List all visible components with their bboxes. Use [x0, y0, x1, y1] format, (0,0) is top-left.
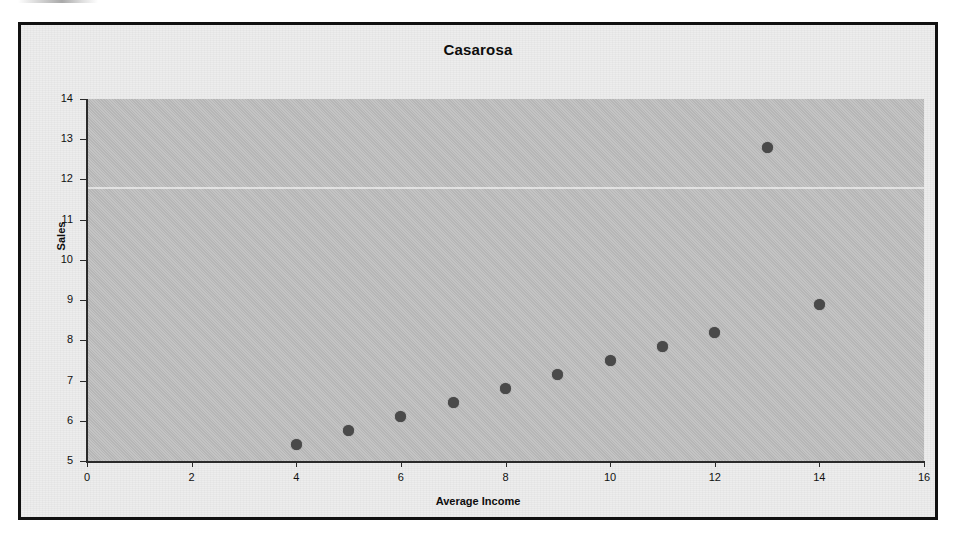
x-axis-tick: [819, 461, 820, 467]
y-axis-tick: [80, 461, 86, 462]
y-axis-tick: [80, 260, 86, 261]
x-axis-tick-label: 8: [486, 471, 526, 483]
data-point: [605, 355, 616, 366]
x-axis-tick-label: 0: [67, 471, 107, 483]
plot-area: [87, 99, 924, 461]
y-axis-tick-label: 5: [33, 454, 73, 466]
x-axis-tick-label: 12: [695, 471, 735, 483]
y-axis-tick-label: 12: [33, 172, 73, 184]
x-axis-tick: [924, 461, 925, 467]
data-point: [448, 397, 459, 408]
y-axis-tick-label: 10: [33, 253, 73, 265]
y-axis-tick: [80, 179, 86, 180]
x-axis-tick: [610, 461, 611, 467]
x-axis-tick: [401, 461, 402, 467]
x-axis-tick: [506, 461, 507, 467]
x-axis-tick: [87, 461, 88, 467]
y-axis-tick-label: 11: [33, 213, 73, 225]
x-axis-tick-label: 2: [172, 471, 212, 483]
x-axis-tick-label: 14: [799, 471, 839, 483]
y-axis-tick: [80, 340, 86, 341]
y-axis-tick: [80, 300, 86, 301]
y-axis-tick: [80, 99, 86, 100]
x-axis-tick: [715, 461, 716, 467]
y-axis-tick: [80, 139, 86, 140]
y-axis-tick: [80, 421, 86, 422]
scan-artifact: [18, 0, 98, 3]
scan-band-artifact: [87, 187, 924, 189]
y-axis-tick-label: 9: [33, 293, 73, 305]
data-point: [762, 142, 773, 153]
data-point: [709, 327, 720, 338]
chart-frame: Casarosa 567891011121314 0246810121416 S…: [18, 22, 938, 520]
x-axis-tick: [296, 461, 297, 467]
x-axis-tick-label: 4: [276, 471, 316, 483]
y-axis-tick: [80, 220, 86, 221]
x-axis-tick-label: 6: [381, 471, 421, 483]
y-axis-tick: [80, 381, 86, 382]
chart-title: Casarosa: [21, 41, 935, 58]
y-axis-line: [86, 99, 88, 463]
data-point: [657, 341, 668, 352]
x-axis-tick-label: 16: [904, 471, 944, 483]
x-axis-title: Average Income: [21, 495, 935, 507]
y-axis-title: Sales: [55, 186, 67, 286]
x-axis-tick: [192, 461, 193, 467]
data-point: [814, 299, 825, 310]
x-axis-tick-label: 10: [590, 471, 630, 483]
y-axis-tick-label: 13: [33, 132, 73, 144]
y-axis-tick-label: 14: [33, 92, 73, 104]
y-axis-tick-label: 8: [33, 333, 73, 345]
y-axis-tick-label: 6: [33, 414, 73, 426]
y-axis-tick-label: 7: [33, 374, 73, 386]
